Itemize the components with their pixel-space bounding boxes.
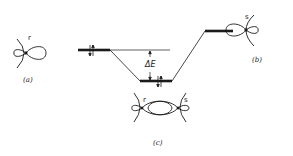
orbital-b-small-lobe bbox=[246, 27, 258, 34]
level-r bbox=[78, 45, 110, 56]
correlation-line-left bbox=[110, 50, 140, 81]
level-bonding bbox=[140, 76, 172, 87]
orbital-c-label-left: r bbox=[143, 96, 146, 104]
energy-gap-label: ΔE bbox=[144, 60, 156, 69]
orbital-a-caption: (a) bbox=[23, 76, 33, 84]
orbital-c-label-right: s bbox=[184, 96, 188, 104]
mo-diagram: r (a) ΔE bbox=[0, 0, 293, 156]
orbital-a bbox=[14, 39, 46, 68]
orbital-b-label: s bbox=[245, 13, 249, 21]
correlation-line-right bbox=[172, 31, 205, 81]
orbital-c-large-lobe-left bbox=[142, 101, 172, 115]
orbital-b-caption: (b) bbox=[252, 56, 262, 64]
orbital-a-label: r bbox=[28, 34, 31, 42]
orbital-c-arc-left bbox=[134, 93, 140, 122]
orbital-c-caption: (c) bbox=[153, 139, 163, 147]
orbital-c bbox=[132, 93, 189, 122]
orbital-c-large-lobe-right bbox=[148, 101, 178, 115]
orbital-a-large-lobe bbox=[26, 47, 46, 60]
orbital-a-arc bbox=[17, 39, 24, 68]
